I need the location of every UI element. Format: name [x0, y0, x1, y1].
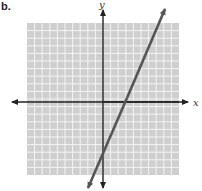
x-axis-label: x [193, 97, 199, 108]
coordinate-plane: x y [0, 0, 202, 191]
y-axis-label: y [98, 0, 105, 10]
